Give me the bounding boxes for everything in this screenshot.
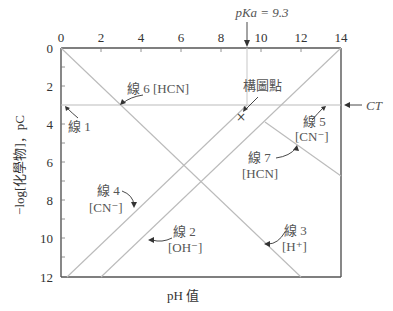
svg-text:[HCN]: [HCN] [242,166,278,181]
svg-text:線 2: 線 2 [173,224,196,239]
svg-text:14: 14 [335,30,349,45]
svg-text:[OH⁻]: [OH⁻] [168,240,202,255]
svg-text:pKa = 9.3: pKa = 9.3 [234,5,289,20]
ph-log-concentration-chart: 0 2 4 6 8 10 12 14 0 2 4 6 8 10 12 pH 值 … [0,0,393,311]
svg-text:0: 0 [58,30,65,45]
svg-text:4: 4 [138,30,145,45]
svg-text:[CN⁻]: [CN⁻] [295,129,329,144]
svg-text:線 3: 線 3 [284,223,307,238]
svg-text:12: 12 [295,30,308,45]
y-axis-label: −log[化學物]，pC [12,115,27,215]
svg-text:線 6 [HCN]: 線 6 [HCN] [127,81,189,96]
label-line-5: 線 5 [CN⁻] [295,106,329,144]
cross-marker: × [236,110,246,124]
label-line-7: 線 7 [HCN] [242,145,299,181]
svg-text:12: 12 [40,270,53,285]
svg-text:10: 10 [255,30,268,45]
svg-text:6: 6 [47,155,54,170]
svg-text:CT: CT [366,98,383,113]
svg-text:4: 4 [47,117,54,132]
construction-point: 構圖點 × [236,78,282,124]
svg-text:構圖點: 構圖點 [243,78,282,93]
ct-annotation: CT [344,98,383,113]
line-4-cn [67,105,247,277]
svg-text:線 7: 線 7 [248,150,271,165]
label-line-2: 線 2 [OH⁻] [148,224,202,255]
svg-text:[H⁺]: [H⁺] [282,239,307,254]
label-line-1: 線 1 [65,106,91,134]
svg-text:2: 2 [47,79,54,94]
svg-text:[CN⁻]: [CN⁻] [89,200,123,215]
svg-text:線 5: 線 5 [303,114,326,129]
label-line-3: 線 3 [H⁺] [264,223,307,254]
label-line-6: 線 6 [HCN] [120,81,189,105]
svg-text:10: 10 [40,231,53,246]
x-axis-label: pH 值 [167,288,199,303]
svg-text:8: 8 [218,30,225,45]
svg-text:線 1: 線 1 [68,119,91,134]
svg-text:8: 8 [47,193,54,208]
svg-text:線 4: 線 4 [97,183,120,198]
svg-text:2: 2 [98,30,105,45]
svg-text:0: 0 [47,41,54,56]
svg-text:6: 6 [178,30,185,45]
y-tick-labels: 0 2 4 6 8 10 12 [40,41,54,285]
label-line-4: 線 4 [CN⁻] [89,183,137,215]
x-tick-labels: 0 2 4 6 8 10 12 14 [58,30,348,45]
